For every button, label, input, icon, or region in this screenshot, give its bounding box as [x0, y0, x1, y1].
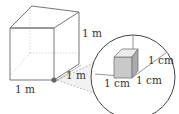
label-large-bottom: 1 m	[15, 83, 35, 95]
highlight-dot	[51, 77, 56, 82]
label-small-bottom-right: 1 cm	[136, 74, 162, 86]
label-small-right: 1 cm	[148, 54, 174, 66]
label-large-vertical: 1 m	[82, 27, 102, 39]
cube-diagram: 1 m 1 m 1 m 1 cm 1 cm 1 cm	[0, 0, 179, 114]
small-cube	[114, 49, 138, 78]
label-small-bottom-left: 1 cm	[104, 77, 130, 89]
label-large-depth: 1 m	[66, 69, 86, 81]
